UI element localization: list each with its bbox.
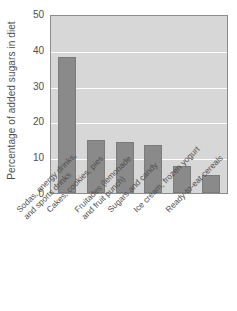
y-tick-40: 40 [33,46,44,56]
y-axis-title: Percentage of added sugars in diet [6,21,17,180]
y-axis-tick-labels: 50 40 30 20 10 0 [24,0,46,205]
y-tick-10: 10 [33,153,44,163]
bar-chart-figure: Percentage of added sugars in diet 50 40… [0,0,237,311]
y-tick-20: 20 [33,117,44,127]
y-tick-50: 50 [33,10,44,20]
y-axis-title-container: Percentage of added sugars in diet [0,0,22,200]
x-axis-tick-labels: Sodas, energy drinks, and sports drinks … [0,194,237,311]
y-tick-30: 30 [33,82,44,92]
